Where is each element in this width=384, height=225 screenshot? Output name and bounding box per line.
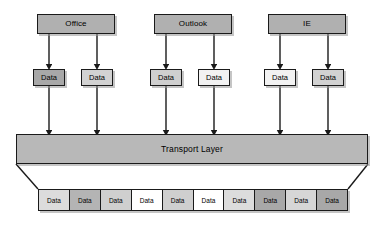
- output-data-cell[interactable]: Data: [101, 190, 132, 210]
- output-data-cell[interactable]: Data: [317, 190, 347, 210]
- output-data-cell[interactable]: Data: [132, 190, 163, 210]
- funnel-left-edge: [16, 164, 38, 189]
- output-data-cell[interactable]: Data: [163, 190, 194, 210]
- funnel-connector: [16, 164, 368, 189]
- app-box-ie[interactable]: IE: [268, 14, 346, 34]
- output-data-cell[interactable]: Data: [70, 190, 101, 210]
- data-packet-box[interactable]: Data: [33, 69, 65, 86]
- data-packet-box[interactable]: Data: [150, 69, 182, 86]
- output-data-cell[interactable]: Data: [39, 190, 70, 210]
- transport-layer-bar[interactable]: Transport Layer: [16, 134, 368, 164]
- data-packet-box[interactable]: Data: [81, 69, 113, 86]
- arrow-group-packet-to-transport: [49, 86, 328, 133]
- output-data-strip: DataDataDataDataDataDataDataDataDataData: [38, 189, 348, 211]
- output-data-cell[interactable]: Data: [255, 190, 286, 210]
- output-data-cell[interactable]: Data: [286, 190, 317, 210]
- data-packet-box[interactable]: Data: [264, 69, 296, 86]
- output-data-cell[interactable]: Data: [194, 190, 225, 210]
- app-box-office[interactable]: Office: [37, 14, 115, 34]
- output-data-cell[interactable]: Data: [224, 190, 255, 210]
- data-packet-box[interactable]: Data: [312, 69, 344, 86]
- diagram-canvas: Office Outlook IE Data Data Data Data Da…: [0, 0, 384, 225]
- arrow-group-app-to-packet: [49, 34, 328, 67]
- data-packet-box[interactable]: Data: [198, 69, 230, 86]
- app-box-outlook[interactable]: Outlook: [154, 14, 232, 34]
- funnel-right-edge: [348, 164, 368, 189]
